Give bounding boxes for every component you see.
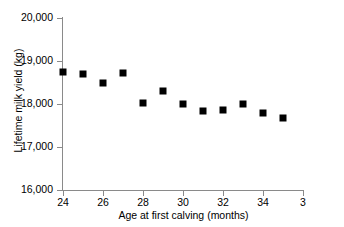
data-point xyxy=(220,107,227,114)
y-tick-label: 16,000 xyxy=(21,184,53,195)
y-tick xyxy=(57,147,62,148)
plot-area xyxy=(63,18,304,190)
y-axis-title: Lifetime milk yield (kg) xyxy=(13,21,24,181)
data-point xyxy=(160,88,167,95)
y-tick xyxy=(57,61,62,62)
y-tick xyxy=(57,18,62,19)
data-point xyxy=(60,68,67,75)
x-tick-label: 3­ xyxy=(273,196,333,208)
y-tick-label: 17,000 xyxy=(21,141,53,152)
y-tick-label: 18,000 xyxy=(21,98,53,109)
data-point xyxy=(180,101,187,108)
scatter-chart: 16,00017,00018,00019,00020,000 242628303… xyxy=(0,0,344,227)
y-tick xyxy=(57,104,62,105)
y-tick-label: 20,000 xyxy=(21,12,53,23)
data-point xyxy=(240,100,247,107)
data-point xyxy=(200,107,207,114)
x-axis-title: Age at first calving (months) xyxy=(63,209,304,221)
data-point xyxy=(140,100,147,107)
data-point xyxy=(120,69,127,76)
data-point xyxy=(280,115,287,122)
data-point xyxy=(100,80,107,87)
y-tick-label: 19,000 xyxy=(21,55,53,66)
data-point xyxy=(80,71,87,78)
y-tick xyxy=(57,190,62,191)
data-point xyxy=(260,110,267,117)
